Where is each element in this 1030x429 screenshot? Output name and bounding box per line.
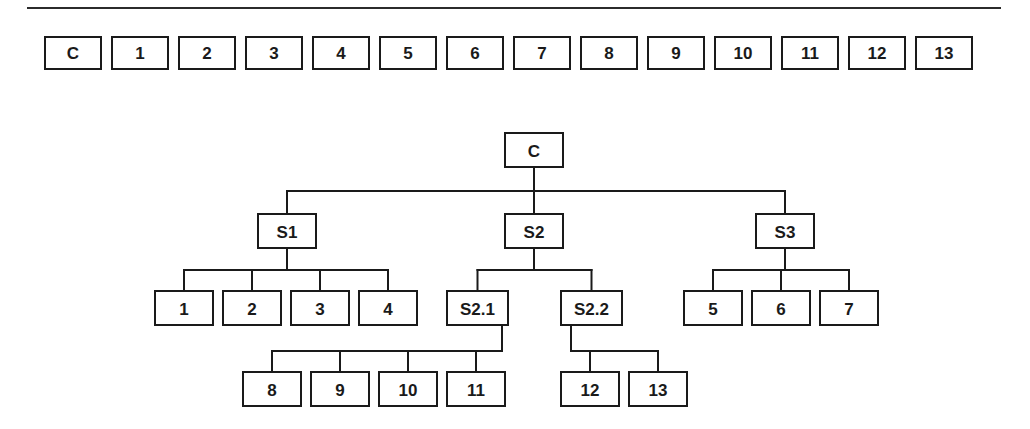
node-label: 3 [315, 300, 324, 319]
tree-edge-layer [184, 167, 849, 372]
node-label: 7 [844, 300, 853, 319]
node-label: 9 [335, 381, 344, 400]
node-label: C [528, 142, 540, 161]
tree-node-s2-1[interactable]: S2.1 [447, 291, 508, 325]
tree-node-6[interactable]: 6 [752, 291, 810, 325]
node-label: S2 [524, 223, 545, 242]
node-label: 10 [399, 381, 418, 400]
node-label: 11 [467, 381, 485, 400]
tree-node-13[interactable]: 13 [629, 372, 687, 406]
tree-node-4[interactable]: 4 [359, 291, 417, 325]
tree-node-10[interactable]: 10 [379, 372, 437, 406]
tree-node-8[interactable]: 8 [243, 372, 301, 406]
tree-node-5[interactable]: 5 [684, 291, 742, 325]
node-label: 12 [581, 381, 600, 400]
node-label: S3 [775, 223, 796, 242]
node-label: 5 [708, 300, 717, 319]
node-label: 6 [776, 300, 785, 319]
tree-node-2[interactable]: 2 [223, 291, 281, 325]
node-label: 13 [649, 381, 668, 400]
tree-node-s2[interactable]: S2 [505, 214, 563, 248]
node-label: S1 [277, 223, 298, 242]
hierarchy-tree-diagram: CS1S2S31234S2.1S2.25678910111213 [0, 0, 1030, 429]
tree-node-1[interactable]: 1 [155, 291, 213, 325]
tree-node-c[interactable]: C [505, 133, 563, 167]
node-label: 2 [247, 300, 256, 319]
tree-node-11[interactable]: 11 [447, 372, 505, 406]
tree-node-s2-2[interactable]: S2.2 [561, 291, 622, 325]
node-label: 8 [267, 381, 276, 400]
node-label: S2.2 [574, 300, 609, 319]
node-label: 1 [179, 300, 188, 319]
node-label: 4 [383, 300, 393, 319]
tree-node-s1[interactable]: S1 [258, 214, 316, 248]
tree-node-s3[interactable]: S3 [756, 214, 814, 248]
node-label: S2.1 [460, 300, 495, 319]
tree-node-3[interactable]: 3 [291, 291, 349, 325]
tree-node-12[interactable]: 12 [561, 372, 619, 406]
tree-node-7[interactable]: 7 [820, 291, 878, 325]
tree-node-9[interactable]: 9 [311, 372, 369, 406]
